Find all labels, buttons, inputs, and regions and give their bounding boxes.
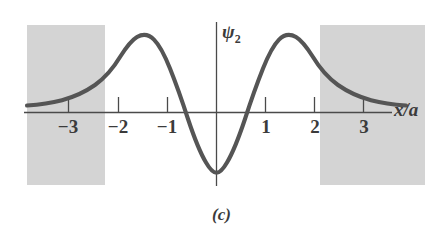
tick-label-minus-2: −2 [101,117,135,136]
tick-label-plus-1: 1 [249,117,283,136]
psi-symbol: ψ [222,21,235,42]
panel-caption: (c) [0,206,443,223]
x-over-a-numerator: x [394,99,404,120]
wavefunction-figure: −3 −2 −1 1 2 3 ψ2 x/a (c) [0,0,443,240]
x-axis-label: x/a [394,100,418,119]
tick-label-minus-1: −1 [150,117,184,136]
y-axis-label: ψ2 [222,22,241,45]
psi-subscript: 2 [235,32,241,46]
tick-label-minus-3: −3 [51,117,85,136]
x-over-a-denominator: a [409,99,419,120]
tick-label-plus-3: 3 [347,117,381,136]
tick-label-plus-2: 2 [298,117,332,136]
